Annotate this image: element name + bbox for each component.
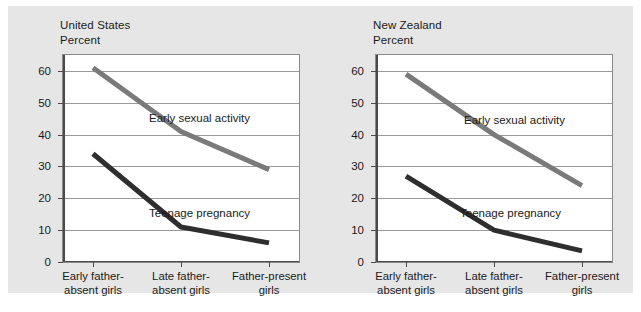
plot-inner-united-states: 0102030405060Early father- absent girlsL… [63,55,299,262]
x-axis-tick-label: Late father- absent girls [444,270,544,297]
series-annotation-early-sexual-activity: Early sexual activity [464,114,565,126]
plot-area-new-zealand: 0102030405060Early father- absent girlsL… [375,54,613,263]
series-line-early-sexual-activity [406,74,582,185]
y-axis-tick-label: 40 [338,129,364,141]
x-axis-tick-label: Father-present girls [219,270,319,297]
y-axis-tick-label: 0 [25,256,51,268]
plot-inner-new-zealand: 0102030405060Early father- absent girlsL… [376,55,612,262]
series-line-teenage-pregnancy [93,154,269,243]
x-axis-tick-label: Early father- absent girls [43,270,143,297]
series-annotation-early-sexual-activity: Early sexual activity [149,112,250,124]
x-axis-tick-label: Father-present girls [532,270,632,297]
chart-title-new-zealand: New Zealand Percent [373,18,442,47]
chart-new-zealand: New Zealand Percent 0102030405060Early f… [321,6,633,293]
y-axis-tick-label: 20 [25,192,51,204]
y-axis-tick-label: 10 [25,224,51,236]
y-axis-tick-label: 0 [338,256,364,268]
y-axis-tick-label: 30 [338,160,364,172]
y-axis-tick-label: 40 [25,129,51,141]
series-annotation-teenage-pregnancy: Teenage pregnancy [149,207,250,219]
series-lines [376,55,612,262]
x-axis-tick-mark [494,262,495,267]
x-axis-tick-label: Late father- absent girls [131,270,231,297]
x-axis-tick-mark [582,262,583,267]
y-axis-tick-label: 50 [338,97,364,109]
y-axis-tick-label: 60 [25,65,51,77]
y-axis-tick-label: 30 [25,160,51,172]
chart-title-united-states: United States Percent [60,18,130,47]
x-axis-tick-mark [406,262,407,267]
y-axis-tick-label: 60 [338,65,364,77]
y-axis-tick-mark [371,262,376,263]
y-axis-tick-label: 20 [338,192,364,204]
figure-root: United States Percent 0102030405060Early… [0,0,641,312]
x-axis-tick-mark [269,262,270,267]
x-axis-tick-mark [181,262,182,267]
x-axis-tick-label: Early father- absent girls [356,270,456,297]
figure-panel: United States Percent 0102030405060Early… [8,6,633,293]
plot-area-united-states: 0102030405060Early father- absent girlsL… [62,54,300,263]
series-annotation-teenage-pregnancy: Teenage pregnancy [460,207,561,219]
y-axis-tick-mark [58,262,63,263]
y-axis-tick-label: 50 [25,97,51,109]
x-axis-tick-mark [93,262,94,267]
y-axis-tick-label: 10 [338,224,364,236]
chart-united-states: United States Percent 0102030405060Early… [8,6,321,293]
series-lines [63,55,299,262]
